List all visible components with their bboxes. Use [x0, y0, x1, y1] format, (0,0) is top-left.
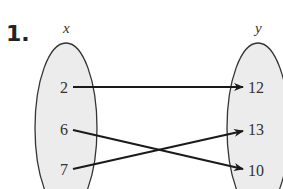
domain-value: 7 [60, 161, 68, 178]
problem-number: 1. [6, 21, 30, 46]
mapping-diagram: 1. x y 2 6 7 12 13 10 [0, 0, 283, 189]
range-value: 12 [248, 79, 264, 96]
domain-label: x [62, 20, 70, 36]
domain-value: 6 [60, 121, 68, 138]
domain-value: 2 [60, 79, 68, 96]
range-value: 13 [248, 121, 264, 138]
range-value: 10 [248, 162, 264, 179]
range-label: y [253, 20, 262, 36]
